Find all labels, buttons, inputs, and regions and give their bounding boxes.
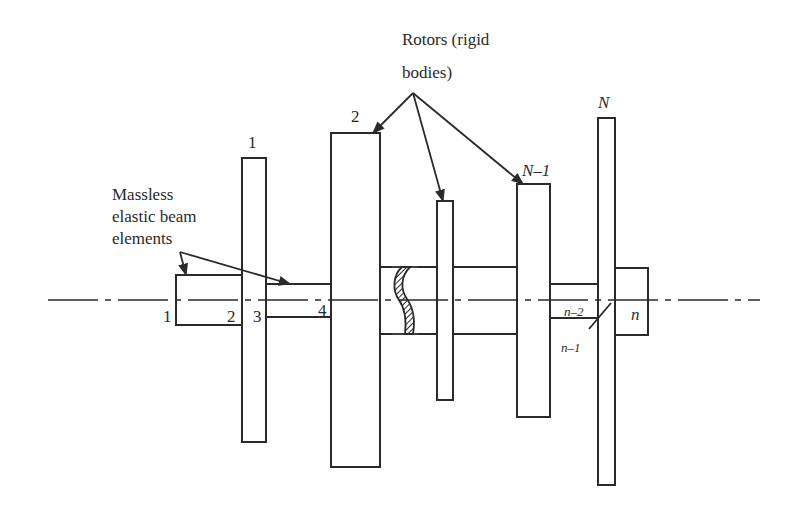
- rotor-1-label: 1: [248, 133, 257, 152]
- rotors-callout-line2: bodies): [402, 63, 452, 82]
- rotor-2-label: 2: [351, 107, 360, 126]
- rotor-n-minus-1-label: N–1: [521, 161, 550, 180]
- beam-1-pointer: [180, 252, 186, 275]
- node-n-label: n: [631, 305, 640, 324]
- node-2-label: 2: [227, 307, 236, 326]
- node-n-minus-2-label: n–2: [564, 304, 584, 319]
- rotor-n: [598, 118, 615, 485]
- shaft-segment-end: [615, 268, 648, 335]
- node-1-label: 1: [163, 307, 172, 326]
- rotor-shaft-diagram: Rotors (rigid bodies) Massless elastic b…: [0, 0, 793, 509]
- rotor-n-label: N: [597, 93, 611, 112]
- rotor-2-pointer: [373, 93, 413, 133]
- rotor-3-pointer: [413, 93, 443, 201]
- beams-callout-line2: elastic beam: [112, 207, 197, 226]
- rotor-n-minus-1-pointer: [413, 93, 523, 184]
- node-3-label: 3: [253, 307, 262, 326]
- rotors-callout-line1: Rotors (rigid: [402, 30, 490, 49]
- node-n-minus-1-label: n–1: [561, 340, 581, 355]
- beams-callout-line1: Massless: [112, 185, 173, 204]
- beams-callout-line3: elements: [112, 229, 172, 248]
- node-4-label: 4: [318, 301, 327, 320]
